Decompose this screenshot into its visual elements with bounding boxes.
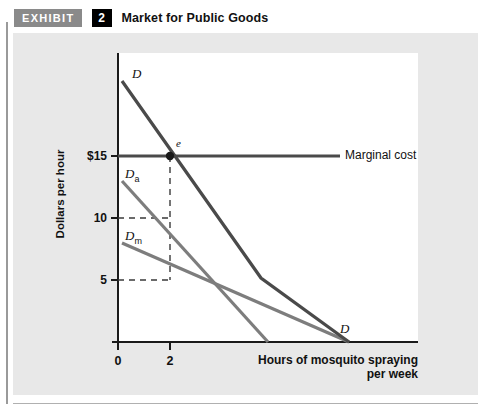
y-tick-label-15: $15 <box>69 149 107 163</box>
exhibit-number-badge: 2 <box>92 9 112 27</box>
x-tick-label-0: 0 <box>108 354 128 368</box>
y-tick-label-10: 10 <box>69 211 107 225</box>
exhibit-page: EXHIBIT 2 Market for Public Goods <box>0 0 491 414</box>
y-axis-ticks <box>111 156 118 280</box>
exhibit-badge: EXHIBIT <box>14 9 82 27</box>
axis-lines <box>112 53 418 347</box>
equilibrium-point-label: e <box>176 137 181 149</box>
curve-label-demand-market-end: D <box>340 321 349 337</box>
curve-label-demand-a: Da <box>125 166 139 184</box>
x-axis-title-line2: per week <box>238 367 418 381</box>
page-title: Market for Public Goods <box>122 11 269 25</box>
curve-label-demand-market: D <box>132 66 141 82</box>
x-axis-title-line1: Hours of mosquito spraying <box>238 353 418 367</box>
x-axis-ticks <box>118 342 170 350</box>
figure-panel: Dollars per hour $15 10 5 0 2 D Da Dm D … <box>13 33 478 395</box>
demand-curve-m <box>122 243 349 342</box>
bottom-horizontal-rule <box>13 403 478 404</box>
left-vertical-rule <box>6 22 8 404</box>
x-tick-label-2: 2 <box>160 354 180 368</box>
y-axis-title: Dollars per hour <box>54 129 66 259</box>
equilibrium-point-marker <box>166 152 174 160</box>
x-axis-title: Hours of mosquito spraying per week <box>238 353 418 381</box>
y-tick-label-5: 5 <box>69 273 107 287</box>
demand-curve-a <box>122 181 268 342</box>
curve-label-demand-m: Dm <box>125 228 142 246</box>
marginal-cost-label: Marginal cost <box>345 148 416 162</box>
exhibit-header: EXHIBIT 2 Market for Public Goods <box>14 8 268 28</box>
demand-curve-market <box>122 81 349 342</box>
